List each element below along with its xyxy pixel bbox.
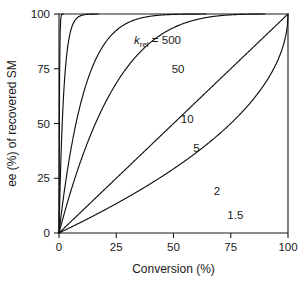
x-tick-label: 25	[110, 241, 123, 253]
y-axis-title: ee (%) of recovered SM	[5, 60, 19, 187]
curve-label-2: 2	[214, 185, 220, 197]
chart-figure: 02550751000255075100 5010521.5 Conversio…	[0, 0, 305, 288]
curve-label-5: 5	[193, 142, 199, 154]
x-tick-label: 75	[224, 241, 237, 253]
curve-krel-2	[59, 14, 288, 233]
x-tick-label: 50	[167, 241, 180, 253]
x-axis-title: Conversion (%)	[132, 262, 215, 276]
curve-series-group	[59, 14, 288, 233]
y-tick-label: 25	[37, 172, 50, 184]
curve-label-10: 10	[181, 113, 194, 125]
curve-label-1.5: 1.5	[227, 209, 243, 221]
y-tick-label: 0	[44, 227, 50, 239]
krel-annotation: krel = 500	[134, 34, 181, 49]
y-tick-label: 100	[31, 8, 50, 20]
y-tick-label: 75	[37, 63, 50, 75]
x-tick-label: 100	[278, 241, 297, 253]
curve-labels-group: 5010521.5	[172, 63, 244, 222]
x-tick-label: 0	[56, 241, 62, 253]
y-tick-label: 50	[37, 118, 50, 130]
curve-label-50: 50	[172, 63, 185, 75]
kinetic-resolution-plot: 02550751000255075100 5010521.5 Conversio…	[0, 0, 305, 288]
curve-krel-5	[59, 14, 265, 233]
krel-annotation-text: krel = 500	[134, 34, 181, 49]
